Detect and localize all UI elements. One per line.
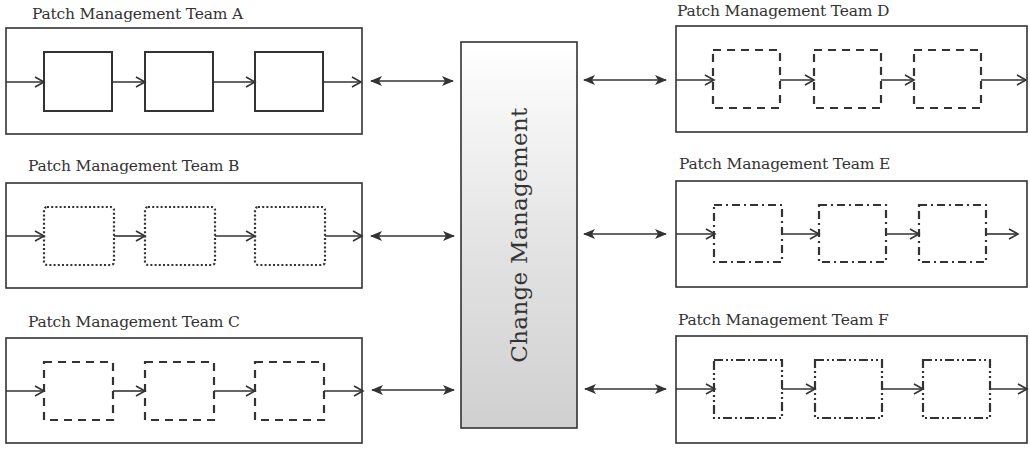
team-c-title: Patch Management Team C (28, 315, 240, 331)
team-c-step-2 (145, 362, 214, 420)
team-a-title: Patch Management Team A (32, 7, 243, 23)
diagram-canvas: Patch Management Team A Patch Management… (0, 0, 1030, 456)
team-e-step-3 (919, 205, 986, 262)
team-d-container (676, 26, 1027, 132)
team-d-group (584, 26, 1027, 132)
team-a-step-3 (255, 52, 323, 111)
team-e-container (676, 181, 1027, 287)
team-f-container (676, 336, 1027, 443)
team-a-group (6, 28, 453, 134)
team-e-step-2 (819, 205, 886, 262)
team-e-step-1 (714, 205, 782, 262)
team-c-container (6, 338, 362, 443)
team-e-group (584, 181, 1027, 287)
team-c-group (6, 338, 454, 443)
team-b-step-3 (255, 207, 325, 265)
team-b-group (6, 183, 454, 288)
team-f-group (585, 336, 1027, 443)
team-b-step-2 (145, 207, 215, 265)
team-a-container (6, 28, 362, 134)
team-b-title: Patch Management Team B (28, 159, 239, 175)
team-f-title: Patch Management Team F (678, 313, 889, 329)
team-d-step-3 (914, 50, 981, 108)
team-b-step-1 (44, 207, 114, 265)
change-management-label: Change Management (506, 107, 532, 362)
team-f-step-2 (815, 360, 882, 418)
team-e-title: Patch Management Team E (679, 157, 890, 173)
team-d-step-2 (814, 50, 881, 108)
team-c-step-3 (255, 362, 324, 420)
team-d-step-1 (713, 50, 780, 108)
team-c-step-1 (44, 362, 113, 420)
team-a-step-1 (44, 52, 112, 111)
team-d-title: Patch Management Team D (677, 4, 889, 20)
team-f-step-3 (923, 360, 990, 418)
team-b-container (6, 183, 362, 288)
team-a-step-2 (145, 52, 213, 111)
team-f-step-1 (714, 360, 782, 418)
